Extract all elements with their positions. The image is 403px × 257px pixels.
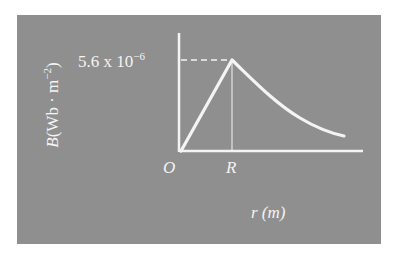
peak-value-exponent: −6 <box>133 50 145 62</box>
peak-value-label: 5.6 x 10−6 <box>78 50 145 72</box>
y-axis-variable: B <box>43 137 62 147</box>
origin-label: O <box>163 158 175 178</box>
r-tick-label: R <box>226 158 236 178</box>
y-axis-label: B(Wb · m−2) <box>41 62 63 147</box>
x-axis-label: r (m) <box>251 203 285 223</box>
peak-value-mantissa: 5.6 x 10 <box>78 52 133 71</box>
b-field-curve <box>181 60 344 151</box>
y-axis-units: (Wb · m <box>43 80 62 138</box>
y-axis-units-close: ) <box>43 62 62 68</box>
y-axis-units-exponent: −2 <box>41 68 53 80</box>
